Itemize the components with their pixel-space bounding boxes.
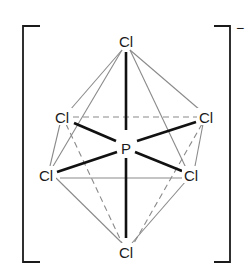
atom-cl-lower-right: Cl <box>184 167 198 184</box>
atom-cl-lower-left: Cl <box>39 167 53 184</box>
edge-lower-right-bottom <box>132 181 186 243</box>
edge-top-upper-right <box>130 50 200 110</box>
atom-cl-upper-left: Cl <box>55 109 69 126</box>
atom-cl-top: Cl <box>119 33 133 50</box>
edge-lower-left-bottom <box>56 178 122 243</box>
edge-upper-right-lower-right <box>195 124 203 166</box>
right-bracket <box>214 26 230 262</box>
octahedron-dashed-edges <box>66 117 202 243</box>
octahedral-structure-diagram: − Cl Cl Cl P Cl <box>0 0 248 278</box>
atom-cl-upper-right: Cl <box>199 109 213 126</box>
edge-upper-left-bottom <box>66 124 122 243</box>
edge-upper-left-lower-left <box>50 124 60 166</box>
bond-p-upper-left <box>74 123 116 141</box>
atom-cl-bottom: Cl <box>119 244 133 261</box>
atom-p-central: P <box>121 140 131 157</box>
bond-p-lower-right <box>135 152 182 171</box>
left-bracket <box>23 26 40 262</box>
bond-p-upper-right <box>137 122 196 141</box>
edge-top-upper-left <box>70 50 122 110</box>
charge-label: − <box>236 20 244 36</box>
bond-p-lower-left <box>57 152 117 172</box>
edge-top-lower-right <box>130 50 186 168</box>
